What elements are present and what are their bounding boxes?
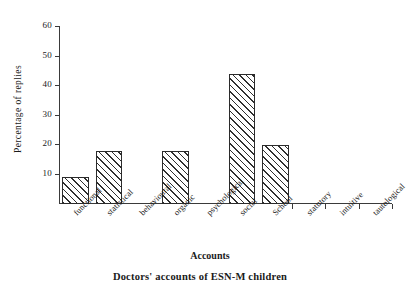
x-tick-9 — [359, 204, 360, 209]
figure-caption: Doctors' accounts of ESN-M children — [0, 271, 400, 282]
y-tick-label-30: 30 — [30, 110, 52, 119]
y-tick-label-20: 20 — [30, 139, 52, 148]
x-tick-10 — [392, 204, 393, 209]
x-tick-7 — [292, 204, 293, 209]
x-tick-8 — [325, 204, 326, 209]
y-axis-title: Percentage of replies — [13, 44, 23, 174]
y-tick-label-10: 10 — [30, 169, 52, 178]
bars-container — [59, 26, 392, 204]
x-axis-title: Accounts — [150, 250, 270, 261]
y-tick-label-50: 50 — [30, 51, 52, 60]
y-tick-label-40: 40 — [30, 80, 52, 89]
y-tick-label-60: 60 — [30, 21, 52, 30]
